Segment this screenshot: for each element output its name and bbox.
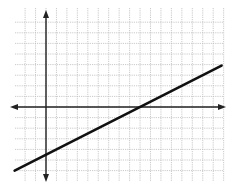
x-axis-left-arrow-icon xyxy=(10,104,18,110)
coordinate-plane xyxy=(0,0,231,187)
y-axis-bottom-arrow-icon xyxy=(43,174,49,182)
y-axis-top-arrow-icon xyxy=(43,10,49,18)
x-axis-right-arrow-icon xyxy=(218,104,226,110)
